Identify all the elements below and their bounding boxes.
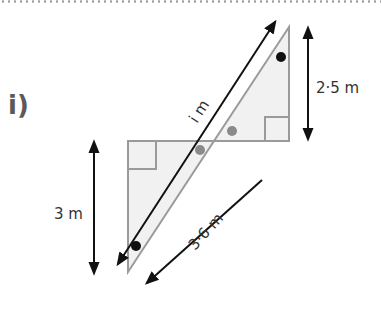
angle-dot-black-upper — [276, 52, 286, 62]
label-unknown-length: i m — [185, 97, 213, 127]
label-upper-height: 2·5 m — [316, 79, 359, 97]
label-lower-height: 3 m — [54, 205, 83, 223]
label-lower-segment: 3·6 m — [185, 209, 227, 253]
similar-triangles-diagram: i m 2·5 m 3 m 3·6 m — [0, 0, 381, 315]
lower-triangle — [128, 141, 214, 272]
angle-dot-gray-lower — [195, 145, 205, 155]
angle-dot-gray-upper — [227, 126, 237, 136]
upper-triangle — [214, 27, 289, 141]
